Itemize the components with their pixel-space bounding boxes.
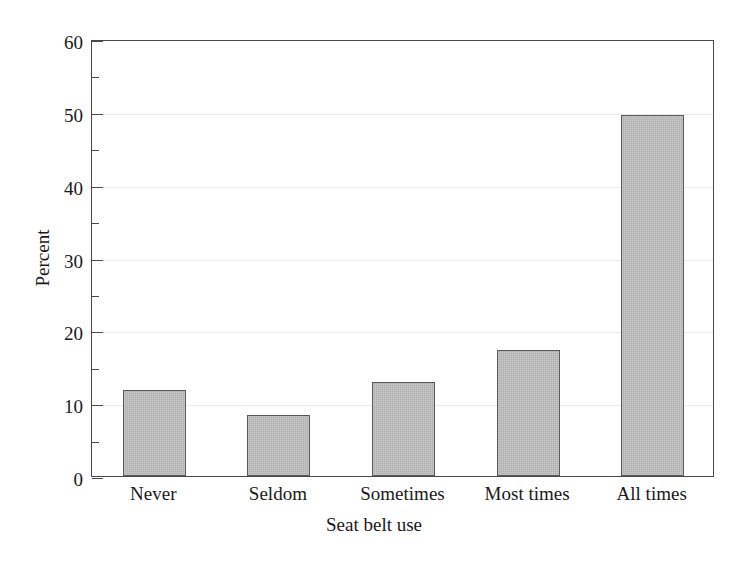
y-tick-minor-35 — [92, 223, 99, 224]
bar-most-times — [497, 350, 560, 476]
y-tick-major-60: 60 — [92, 41, 103, 42]
y-tick-label-0: 0 — [74, 470, 93, 489]
y-tick-minor-25 — [92, 296, 99, 297]
gridline-50 — [92, 114, 713, 115]
x-tick-label-seldom: Seldom — [249, 484, 307, 503]
y-tick-label-20: 20 — [64, 324, 92, 343]
y-tick-minor-15 — [92, 369, 99, 370]
y-tick-major-20: 20 — [92, 332, 103, 333]
x-tick-label-all-times: All times — [617, 484, 687, 503]
y-tick-minor-45 — [92, 150, 99, 151]
y-tick-minor-5 — [92, 442, 99, 443]
bar-sometimes — [372, 382, 435, 476]
y-tick-major-30: 30 — [92, 260, 103, 261]
y-tick-label-10: 10 — [64, 397, 92, 416]
y-tick-major-50: 50 — [92, 114, 103, 115]
x-tick-label-never: Never — [130, 484, 176, 503]
gridline-40 — [92, 187, 713, 188]
gridline-20 — [92, 332, 713, 333]
y-tick-major-0: 0 — [92, 478, 103, 479]
plot-area: 0102030405060 — [91, 40, 714, 477]
y-tick-label-30: 30 — [64, 251, 92, 270]
x-axis-title: Seat belt use — [0, 515, 748, 534]
y-axis-title: Percent — [33, 230, 52, 287]
bar-chart-figure: Percent 0102030405060 NeverSeldomSometim… — [0, 0, 748, 569]
bar-seldom — [247, 415, 310, 476]
bar-all-times — [621, 115, 684, 476]
x-tick-label-sometimes: Sometimes — [360, 484, 444, 503]
x-tick-label-most-times: Most times — [485, 484, 570, 503]
y-tick-major-40: 40 — [92, 187, 103, 188]
y-tick-label-60: 60 — [64, 33, 92, 52]
y-tick-minor-55 — [92, 77, 99, 78]
gridline-30 — [92, 260, 713, 261]
y-tick-label-50: 50 — [64, 105, 92, 124]
y-tick-major-10: 10 — [92, 405, 103, 406]
bar-never — [123, 390, 186, 476]
y-tick-label-40: 40 — [64, 178, 92, 197]
